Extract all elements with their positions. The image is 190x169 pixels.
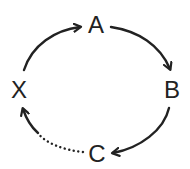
edge-a-to-b	[111, 27, 170, 69]
edge-c-to-x-dotted	[38, 133, 83, 152]
cycle-diagram: A B C X	[0, 0, 190, 169]
node-x: X	[11, 78, 27, 102]
node-a: A	[88, 13, 104, 37]
node-b: B	[164, 78, 180, 102]
node-c: C	[88, 142, 105, 166]
edge-b-to-c	[113, 108, 169, 153]
edge-x-to-a	[24, 27, 80, 70]
edge-c-to-x-tail	[23, 109, 38, 133]
